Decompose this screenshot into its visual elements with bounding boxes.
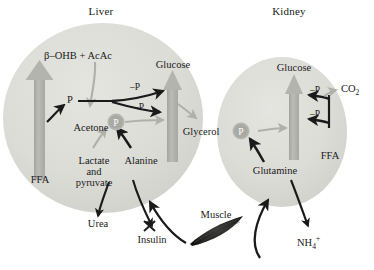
insulin-label: Insulin xyxy=(137,234,166,245)
kidney-glutamine-label: Glutamine xyxy=(253,165,297,176)
liver-p-hub-node: P xyxy=(108,114,125,131)
liver-title: Liver xyxy=(89,6,114,18)
urea-label: Urea xyxy=(88,218,108,229)
lactate-line-2: and xyxy=(76,166,113,177)
lactate-line-3: pyruvate xyxy=(76,177,113,188)
liver-acetone-label: Acetone xyxy=(74,122,109,133)
kidney-co2-label: CO2 xyxy=(341,83,359,97)
muscle-to-glutamine-black-arrow xyxy=(255,200,268,258)
liver-minus-p-upper-label: –P xyxy=(130,83,140,93)
nh4-superscript: + xyxy=(316,234,320,243)
kidney-ffa-label: FFA xyxy=(321,150,339,161)
muscle-label: Muscle xyxy=(201,209,232,220)
liver-ketones-label: β–OHB + AcAc xyxy=(44,50,112,61)
ammonium-label: NH4+ xyxy=(297,235,320,251)
liver-glycerol-label: Glycerol xyxy=(183,126,220,137)
liver-lactate-pyruvate-label: Lactate and pyruvate xyxy=(76,155,113,188)
kidney-title: Kidney xyxy=(272,6,306,18)
kidney-p-hub-node: P xyxy=(233,123,250,140)
liver-p-hub-label: P xyxy=(113,117,118,127)
metabolic-pathway-figure: Liver Kidney β–OHB + AcAc FFA Glucose Ac… xyxy=(0,0,374,270)
liver-ffa-label: FFA xyxy=(31,174,49,185)
kidney-minus-p-upper-label: –P xyxy=(310,86,320,96)
liver-glucose-label: Glucose xyxy=(156,59,190,70)
kidney-glucose-label: Glucose xyxy=(277,62,311,73)
co2-subscript: 2 xyxy=(356,88,360,97)
lactate-line-1: Lactate xyxy=(76,155,113,166)
liver-minus-p-lower-label: –P xyxy=(134,103,144,113)
muscle-fiber-shape xyxy=(190,216,243,246)
liver-alanine-label: Alanine xyxy=(124,155,157,166)
kidney-minus-p-lower-label: –P xyxy=(310,110,320,120)
liver-p-inline-label: P xyxy=(67,94,73,105)
kidney-p-hub-label: P xyxy=(238,126,243,136)
